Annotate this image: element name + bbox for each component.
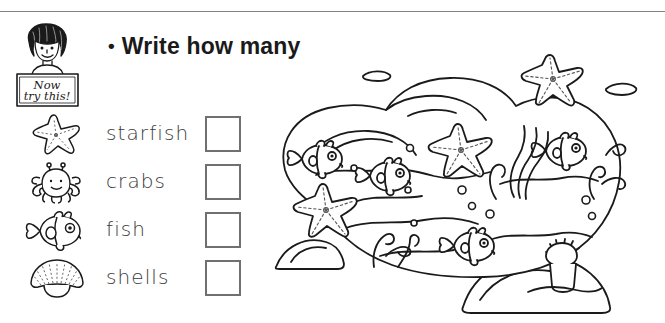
list-item: shells — [18, 256, 268, 304]
list-item-label: starfish — [106, 121, 189, 145]
count-items-list: starfish — [18, 112, 268, 304]
rock-pool-illustration — [258, 24, 662, 321]
mascot-girl-with-sign: Now try this! — [8, 20, 88, 108]
crab-icon — [20, 160, 94, 206]
fish-icon — [20, 208, 94, 254]
sign-line-2: try this! — [24, 89, 71, 103]
header-divider — [0, 11, 665, 12]
answer-box-fish[interactable] — [205, 212, 241, 248]
list-item: crabs — [18, 160, 268, 208]
list-item: fish — [18, 208, 268, 256]
bullet-icon: • — [108, 35, 115, 57]
starfish-icon — [20, 112, 94, 158]
shell-icon — [20, 256, 94, 302]
answer-box-crabs[interactable] — [205, 164, 241, 200]
list-item-label: crabs — [106, 169, 166, 193]
answer-box-starfish[interactable] — [205, 116, 241, 152]
answer-box-shells[interactable] — [205, 260, 241, 296]
list-item-label: shells — [106, 265, 170, 289]
list-item-label: fish — [106, 217, 146, 241]
list-item: starfish — [18, 112, 268, 160]
